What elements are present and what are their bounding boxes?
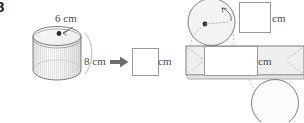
cylinder-top-face (33, 27, 81, 49)
cylinder-hidden-base-edge (33, 60, 81, 70)
net-top-circle (188, 0, 235, 46)
radius-answer-box[interactable] (239, 2, 271, 33)
net-top-circle-fold-curve-left (190, 26, 205, 46)
diameter-leader-line (63, 27, 73, 33)
height-brace (85, 33, 92, 74)
cylinder-body (33, 36, 81, 80)
net-top-circle-fold-curve-right (232, 30, 234, 46)
unit-label-height: cm (158, 55, 171, 67)
net-fold-guide-left-bottom (188, 61, 204, 73)
circumference-answer-box[interactable] (204, 46, 258, 76)
problem-figure-panel: 8 (0, 0, 304, 122)
net-top-circle-center (203, 22, 208, 27)
diameter-label: 6 cm (55, 12, 77, 24)
problem-number: 8 (0, 0, 4, 15)
right-arrow-icon (110, 56, 129, 68)
net-fold-guide-right-bottom (286, 61, 302, 73)
net-fold-guide-left-top (188, 48, 204, 60)
cylinder-center-point (57, 31, 62, 36)
height-label: 8 cm (84, 55, 106, 67)
diameter-arrowhead (63, 31, 67, 35)
net-fold-guide-right-top (286, 48, 302, 60)
net-bottom-circle (252, 80, 299, 123)
height-answer-box[interactable] (132, 48, 159, 76)
net-radius-dashed-line (205, 22, 230, 24)
net-bottom-circle-fold-curve-left (249, 79, 264, 96)
net-radius-curved-arrow (222, 8, 231, 21)
net-radius-arrowhead (222, 8, 227, 13)
unit-label-circumference: cm (258, 55, 271, 67)
unit-label-radius: cm (272, 12, 285, 24)
